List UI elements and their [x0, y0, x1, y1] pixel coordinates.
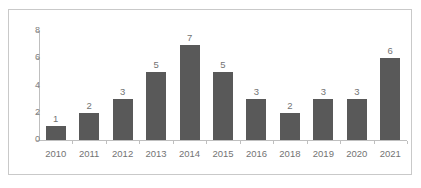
bar[interactable]	[246, 99, 266, 140]
x-axis-tick-label: 2016	[239, 148, 273, 159]
bar-data-label: 3	[108, 87, 138, 97]
x-axis-tick-mark	[173, 141, 174, 144]
bar-data-label: 3	[342, 87, 372, 97]
bar-data-label: 5	[141, 60, 171, 70]
y-axis-tick-label: 0	[18, 135, 40, 144]
bar-data-label: 2	[74, 101, 104, 111]
bar-data-label: 3	[241, 87, 271, 97]
y-axis-tick-label: 8	[18, 26, 40, 35]
bar[interactable]	[380, 58, 400, 140]
bar[interactable]	[347, 99, 367, 140]
bar[interactable]	[313, 99, 333, 140]
bar-data-label: 3	[308, 87, 338, 97]
x-axis-tick-mark	[72, 141, 73, 144]
x-axis-tick-label: 2015	[206, 148, 240, 159]
bar-data-label: 5	[208, 60, 238, 70]
bar-data-label: 1	[41, 114, 71, 124]
x-axis-tick-label: 2014	[173, 148, 207, 159]
x-axis-tick-label: 2011	[72, 148, 106, 159]
x-axis-tick-label: 2019	[306, 148, 340, 159]
chart-frame: 02468 12357532336 2010201120122013201420…	[8, 9, 412, 175]
x-axis-tick-mark	[273, 141, 274, 144]
bar[interactable]	[146, 72, 166, 140]
bar[interactable]	[280, 113, 300, 140]
bar[interactable]	[180, 45, 200, 140]
bar-chart-plot-area: 02468 12357532336 2010201120122013201420…	[9, 10, 413, 176]
bar-data-label: 7	[175, 33, 205, 43]
bar[interactable]	[79, 113, 99, 140]
x-axis-tick-label: 2020	[340, 148, 374, 159]
x-axis-line	[39, 140, 407, 141]
x-axis-tick-label: 2012	[106, 148, 140, 159]
bar[interactable]	[113, 99, 133, 140]
x-axis-tick-mark	[340, 141, 341, 144]
y-axis-tick-label: 2	[18, 108, 40, 117]
y-axis-tick: 8	[9, 26, 40, 35]
x-axis-tick-label: 2013	[139, 148, 173, 159]
bar-data-label: 2	[275, 101, 305, 111]
x-axis-tick-label: 2018	[273, 148, 307, 159]
y-axis-tick: 6	[9, 53, 40, 62]
x-axis-tick-mark	[307, 141, 308, 144]
bar[interactable]	[46, 126, 66, 140]
y-axis-tick: 2	[9, 108, 40, 117]
bar[interactable]	[213, 72, 233, 140]
x-axis-tick-mark	[240, 141, 241, 144]
x-axis-tick-mark	[106, 141, 107, 144]
x-axis-tick-mark	[374, 141, 375, 144]
x-axis-tick-mark	[407, 141, 408, 144]
x-axis-tick-mark	[139, 141, 140, 144]
bar-data-label: 6	[375, 46, 405, 56]
y-axis-tick: 4	[9, 81, 40, 90]
x-axis-tick-mark	[206, 141, 207, 144]
y-axis-tick-label: 4	[18, 81, 40, 90]
x-axis-tick-label: 2010	[39, 148, 73, 159]
x-axis-tick-label: 2021	[373, 148, 407, 159]
y-axis-tick-label: 6	[18, 53, 40, 62]
y-axis-tick: 0	[9, 135, 40, 144]
